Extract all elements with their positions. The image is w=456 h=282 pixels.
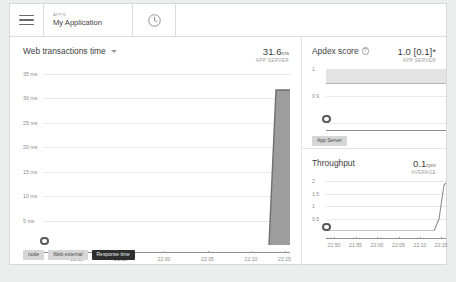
legend-chip-node[interactable]: node bbox=[23, 250, 44, 260]
menu-button[interactable] bbox=[10, 4, 44, 36]
app-selector[interactable]: APPS My Application bbox=[44, 4, 133, 36]
legend-chip-app-server[interactable]: App Server bbox=[312, 136, 347, 146]
y-axis-label: 35 ms bbox=[23, 71, 42, 77]
zoom-handle[interactable] bbox=[322, 115, 331, 124]
apdex-title-group: Apdex score ? bbox=[312, 46, 369, 56]
topbar-spacer bbox=[176, 4, 446, 36]
metric-sublabel: APP SERVER bbox=[256, 58, 289, 63]
time-range-button[interactable] bbox=[133, 4, 176, 36]
y-axis-label: 25 ms bbox=[23, 120, 42, 126]
panel-title-text: Web transactions time bbox=[23, 46, 106, 56]
throughput-chart[interactable]: 2 1.5 1 0.5 21:50 bbox=[312, 175, 446, 239]
apdex-header: Apdex score ? 1.0 [0.1]* APP SERVER bbox=[302, 37, 446, 63]
y-axis-label: 20 ms bbox=[23, 144, 42, 150]
x-axis-label: 22:00 bbox=[371, 242, 384, 248]
apdex-metric: 1.0 [0.1]* APP SERVER bbox=[398, 46, 436, 63]
x-axis-label: 22:10 bbox=[414, 242, 427, 248]
throughput-metric: 0.1rpm AVERAGE bbox=[411, 158, 436, 175]
x-axis-label: 22:15 bbox=[435, 242, 448, 248]
x-axis-line bbox=[326, 238, 446, 239]
dashboard-body: Web transactions time 31.6ms APP SERVER … bbox=[10, 37, 446, 265]
hamburger-icon bbox=[19, 15, 34, 26]
throughput-panel: Throughput 0.1rpm AVERAGE 2 1.5 bbox=[302, 149, 446, 265]
metric-value: 1.0 [0.1]* bbox=[398, 46, 436, 57]
x-axis-label: 21:50 bbox=[328, 242, 341, 248]
metric-value: 0.1 bbox=[413, 158, 426, 169]
y-axis-label: 0.5 bbox=[312, 216, 325, 222]
x-axis-label: 22:05 bbox=[392, 242, 405, 248]
zoom-handle[interactable] bbox=[322, 223, 331, 232]
clock-icon bbox=[147, 13, 162, 28]
x-axis-label: 22:05 bbox=[201, 256, 214, 262]
apdex-legend: App Server bbox=[312, 136, 347, 146]
y-axis-label: 1 bbox=[312, 66, 325, 72]
response-time-area-series bbox=[44, 64, 290, 245]
zoom-handle[interactable] bbox=[40, 237, 49, 246]
app-card: APPS My Application Web transactions tim… bbox=[9, 3, 447, 265]
y-axis-label: 1.5 bbox=[312, 191, 325, 197]
y-axis-label: 2 bbox=[312, 178, 325, 184]
x-axis-label: 22:00 bbox=[158, 256, 171, 262]
web-transactions-title-group[interactable]: Web transactions time bbox=[23, 46, 117, 56]
x-axis-label: 22:15 bbox=[278, 256, 291, 262]
y-axis-label: 10 ms bbox=[23, 193, 42, 199]
metric-unit: rpm bbox=[426, 162, 436, 168]
web-transactions-chart[interactable]: 35 ms 30 ms 25 ms 20 ms 15 ms 10 ms 5 ms bbox=[23, 64, 290, 253]
app-name-label: My Application bbox=[53, 19, 102, 28]
throughput-header: Throughput 0.1rpm AVERAGE bbox=[302, 149, 446, 175]
panel-title-text: Apdex score bbox=[312, 46, 359, 56]
y-axis-label: 5 ms bbox=[23, 218, 42, 224]
chevron-down-icon[interactable] bbox=[111, 50, 117, 53]
question-mark-icon[interactable]: ? bbox=[362, 47, 370, 55]
throughput-line-series bbox=[326, 175, 446, 231]
throughput-title-group: Throughput bbox=[312, 158, 355, 168]
legend-chip-web-external[interactable]: Web external bbox=[48, 250, 87, 260]
x-axis-label: 22:10 bbox=[245, 256, 258, 262]
x-axis-label: 21:55 bbox=[349, 242, 362, 248]
apdex-band-series bbox=[326, 69, 446, 83]
apdex-series-line bbox=[326, 83, 446, 84]
apdex-chart[interactable]: 1 0.9 bbox=[312, 63, 446, 131]
y-axis-label: 30 ms bbox=[23, 95, 42, 101]
legend-chip-response-time[interactable]: Response time bbox=[92, 250, 135, 260]
y-axis-label: 0.9 bbox=[312, 93, 325, 99]
top-navigation-bar: APPS My Application bbox=[10, 4, 446, 37]
y-axis-label: 1 bbox=[312, 203, 325, 209]
metric-unit: ms bbox=[282, 50, 289, 56]
web-transactions-legend: node Web external Response time bbox=[23, 250, 135, 260]
app-kicker-label: APPS bbox=[53, 13, 102, 18]
web-transactions-metric: 31.6ms APP SERVER bbox=[256, 46, 289, 63]
web-transactions-header: Web transactions time 31.6ms APP SERVER bbox=[10, 37, 301, 63]
metric-value: 31.6 bbox=[263, 46, 282, 57]
web-transactions-panel: Web transactions time 31.6ms APP SERVER … bbox=[10, 37, 302, 265]
apdex-panel: Apdex score ? 1.0 [0.1]* APP SERVER 1 0.… bbox=[302, 37, 446, 149]
right-column: Apdex score ? 1.0 [0.1]* APP SERVER 1 0.… bbox=[302, 37, 446, 265]
x-axis-line bbox=[326, 130, 446, 131]
panel-title-text: Throughput bbox=[312, 158, 355, 168]
y-axis-label: 15 ms bbox=[23, 169, 42, 175]
